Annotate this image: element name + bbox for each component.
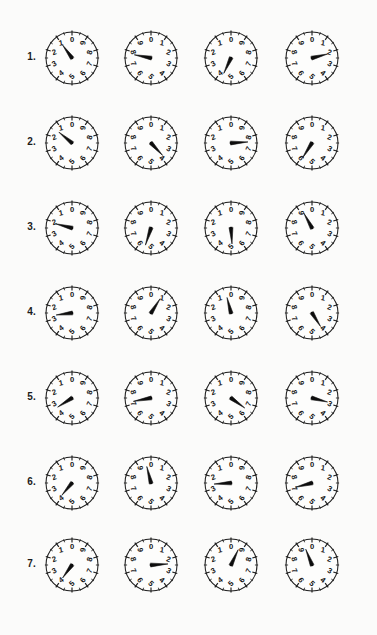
row-number-label: 3. — [14, 221, 36, 232]
clock-face[interactable]: 0123456789 — [120, 27, 182, 89]
clock-hand-hub — [230, 227, 233, 230]
clock-face[interactable]: 0123456789 — [281, 27, 343, 89]
worksheet-row: 2.01234567890123456789012345678901234567… — [0, 106, 377, 191]
clock-hand-hub — [311, 564, 314, 567]
clock-hand-hub — [230, 482, 233, 485]
worksheet-row: 3.01234567890123456789012345678901234567… — [0, 191, 377, 276]
clock-face[interactable]: 0123456789 — [41, 367, 103, 429]
dial-numeral: 9 — [135, 465, 144, 470]
clock-hand-hub — [311, 482, 314, 485]
row-number-label: 2. — [14, 136, 36, 147]
dial-numeral: 9 — [237, 380, 246, 385]
clock-face[interactable]: 0123456789 — [120, 452, 182, 514]
clock-face[interactable]: 0123456789 — [120, 112, 182, 174]
clock-face[interactable]: 0123456789 — [281, 452, 343, 514]
dial-numeral: 9 — [78, 465, 87, 470]
clock-face[interactable]: 0123456789 — [41, 112, 103, 174]
clock-face[interactable]: 0123456789 — [281, 197, 343, 259]
clock-hand-hub — [230, 57, 233, 60]
row-number-label: 4. — [14, 306, 36, 317]
clock-hand-hub — [150, 397, 153, 400]
clock-face[interactable]: 0123456789 — [120, 282, 182, 344]
clock-face[interactable]: 0123456789 — [41, 197, 103, 259]
worksheet-row: 7.01234567890123456789012345678901234567… — [0, 528, 377, 613]
dial-numeral: 0 — [310, 290, 314, 299]
dial-numeral: 9 — [78, 295, 87, 300]
dial-numeral: 0 — [229, 205, 233, 214]
clock-face[interactable]: 0123456789 — [41, 282, 103, 344]
row-number-label: 5. — [14, 391, 36, 402]
dial-numeral: 0 — [229, 542, 233, 551]
clock-hand-hub — [150, 482, 153, 485]
clock-hand-hub — [150, 564, 153, 567]
clock-face[interactable]: 0123456789 — [281, 534, 343, 596]
clock-hand-hub — [230, 142, 233, 145]
dial-numeral: 0 — [229, 35, 233, 44]
dial-numeral: 9 — [296, 40, 305, 45]
clock-hand-hub — [71, 312, 74, 315]
dial-numeral: 0 — [70, 35, 74, 44]
dial-numeral: 9 — [237, 210, 246, 215]
clock-hand-hub — [71, 482, 74, 485]
dial-numeral: 0 — [70, 205, 74, 214]
clock-face[interactable]: 0123456789 — [120, 367, 182, 429]
clock-hand-hub — [311, 312, 314, 315]
clock-face[interactable]: 0123456789 — [120, 534, 182, 596]
dial-numeral: 0 — [149, 460, 153, 469]
dial-numeral: 9 — [237, 40, 246, 45]
dial-numeral: 9 — [296, 547, 305, 552]
clock-face[interactable]: 0123456789 — [200, 367, 262, 429]
dial-numeral: 0 — [229, 460, 233, 469]
dial-numeral: 0 — [70, 120, 74, 129]
row-number-label: 7. — [14, 558, 36, 569]
dial-numeral: 9 — [78, 547, 87, 552]
clock-face[interactable]: 0123456789 — [120, 197, 182, 259]
dial-numeral: 9 — [135, 125, 144, 130]
clock-face[interactable]: 0123456789 — [200, 282, 262, 344]
clock-face[interactable]: 0123456789 — [200, 27, 262, 89]
clock-face[interactable]: 0123456789 — [281, 112, 343, 174]
dial-numeral: 0 — [310, 120, 314, 129]
clock-hand-hub — [71, 397, 74, 400]
dial-numeral: 0 — [229, 290, 233, 299]
clock-face[interactable]: 0123456789 — [200, 112, 262, 174]
dial-numeral: 9 — [237, 125, 246, 130]
dial-numeral: 0 — [70, 290, 74, 299]
clock-face[interactable]: 0123456789 — [281, 367, 343, 429]
dial-numeral: 0 — [149, 205, 153, 214]
dial-numeral: 0 — [149, 35, 153, 44]
clock-face[interactable]: 0123456789 — [281, 282, 343, 344]
dial-numeral: 0 — [310, 35, 314, 44]
clock-face[interactable]: 0123456789 — [41, 534, 103, 596]
dial-numeral: 9 — [135, 210, 144, 215]
dial-numeral: 0 — [310, 375, 314, 384]
dial-numeral: 0 — [149, 375, 153, 384]
dial-numeral: 0 — [310, 205, 314, 214]
dial-numeral: 0 — [149, 290, 153, 299]
dial-numeral: 0 — [149, 120, 153, 129]
clock-hand-hub — [230, 564, 233, 567]
clock-hand-hub — [71, 227, 74, 230]
dial-numeral: 0 — [229, 375, 233, 384]
clock-hand-hub — [311, 142, 314, 145]
dial-numeral: 9 — [296, 465, 305, 470]
dial-numeral: 9 — [135, 547, 144, 552]
dial-numeral: 9 — [78, 210, 87, 215]
dial-numeral: 0 — [70, 542, 74, 551]
row-number-label: 6. — [14, 476, 36, 487]
dial-numeral: 9 — [78, 380, 87, 385]
clock-face[interactable]: 0123456789 — [41, 27, 103, 89]
dial-numeral: 9 — [135, 380, 144, 385]
clock-face[interactable]: 0123456789 — [200, 452, 262, 514]
dial-numeral: 9 — [296, 380, 305, 385]
clock-hand-hub — [150, 227, 153, 230]
clock-hand-hub — [311, 397, 314, 400]
clock-face[interactable]: 0123456789 — [200, 197, 262, 259]
dial-numeral: 9 — [78, 125, 87, 130]
clock-hand-hub — [71, 142, 74, 145]
clock-hand-hub — [150, 57, 153, 60]
dial-numeral: 9 — [78, 40, 87, 45]
clock-face[interactable]: 0123456789 — [41, 452, 103, 514]
clock-face[interactable]: 0123456789 — [200, 534, 262, 596]
clock-hand-hub — [150, 312, 153, 315]
